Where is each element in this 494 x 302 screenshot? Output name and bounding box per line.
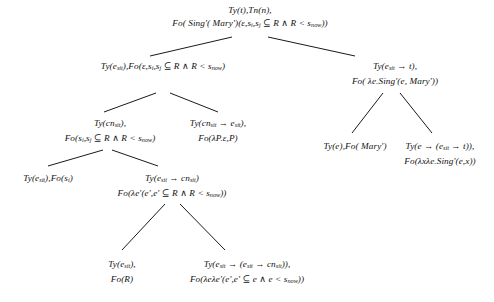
node-ty-esit-fo-si: Ty(esit),Fo(si) [23,172,73,187]
node-text-line: Ty(cnsit), [65,117,156,132]
node-text-line: Fo(λP.ε,P) [190,132,246,145]
node-ty-esit-fo-epsilon: Ty(esit),Fo(ε,si,sj ⊆ R ∧ R < snow) [101,60,225,75]
node-text-line: Ty(esit),Fo(ε,si,sj ⊆ R ∧ R < snow) [101,60,225,75]
node-ty-esit-arrow-t: Ty(esit → t),Fo( λe.Sing'(e, Mary')) [352,60,438,87]
node-text-line: Ty(t),Tn(n), [172,4,327,17]
node-text-line: Ty(esit → t), [352,60,438,75]
edge-left1-to-cnsit [104,93,156,112]
edge-cnsit-to-si [48,150,103,166]
edge-right1-to-ee [400,93,432,133]
node-text-line: Ty(cnsit → esit), [190,117,246,132]
semantic-tree-diagram: Ty(t),Tn(n),Fo( Sing'( Mary')(ε,si,sj ⊆ … [0,0,494,302]
node-text-line: Ty(esit → (esit → cnsit)), [190,258,304,273]
node-ty-cnsit: Ty(cnsit),Fo(si,sj ⊆ R ∧ R < snow) [65,117,156,146]
node-ty-e-fo-mary: Ty(e),Fo( Mary') [323,140,386,153]
node-ty-esit-arrow-cnsit: Ty(esit → cnsit)Fo(λe'(e',e' ⊆ R ∧ R < s… [118,172,227,201]
node-text-line: Ty(esit → cnsit) [118,172,227,187]
edge-cn-to-r [122,204,165,250]
node-text-line: Fo( λe.Sing'(e, Mary')) [352,75,438,88]
edge-root-to-left1 [150,37,232,56]
node-text-line: Ty(esit),Fo(si) [23,172,73,187]
node-ty-e-arrow-esit-arrow-t: Ty(e → (esit → t)),Fo(λxλe.Sing'(e,x)) [404,140,476,167]
node-ty-esit-fo-r: Ty(esit),Fo(R) [108,258,135,285]
edge-right1-to-e [352,93,383,133]
node-text-line: Ty(e → (esit → t)), [404,140,476,155]
node-text-line: Ty(esit), [108,258,135,273]
node-ty-cnsit-arrow-esit: Ty(cnsit → esit),Fo(λP.ε,P) [190,117,246,144]
node-text-line: Fo(R) [108,273,135,286]
node-text-line: Fo(λeλe'(e',e' ⊆ e ∧ e < snow)) [190,273,304,288]
node-ty-esit-arrow-esit-arrow-cnsit: Ty(esit → (esit → cnsit)),Fo(λeλe'(e',e'… [190,258,304,287]
node-text-line: Fo(λxλe.Sing'(e,x)) [404,155,476,168]
node-text-line: Fo(si,sj ⊆ R ∧ R < snow) [65,132,156,147]
node-text-line: Fo( Sing'( Mary')(ε,si,sj ⊆ R ∧ R < snow… [172,17,327,32]
edge-cn-to-ee [180,204,225,250]
edge-root-to-right1 [268,37,355,56]
node-text-line: Fo(λe'(e',e' ⊆ R ∧ R < snow)) [118,187,227,202]
root-node: Ty(t),Tn(n),Fo( Sing'( Mary')(ε,si,sj ⊆ … [172,4,327,31]
edge-left1-to-cnsit-e [170,93,218,112]
edge-cnsit-to-cn [112,150,158,166]
node-text-line: Ty(e),Fo( Mary') [323,140,386,153]
